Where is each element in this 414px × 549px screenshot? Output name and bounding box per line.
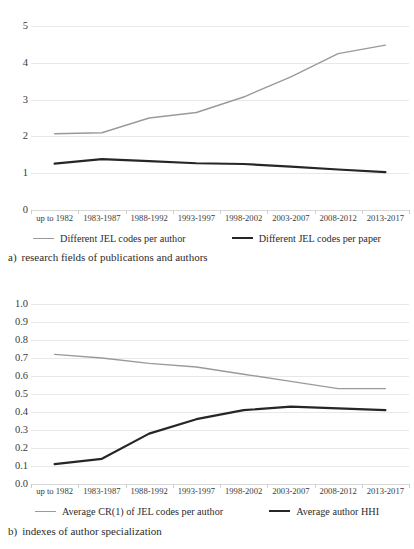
panel-caption-a: a)research fields of publications and au… — [8, 251, 208, 264]
x-tick-label: 2013-2017 — [367, 214, 404, 223]
x-tick-label: 1988-1992 — [131, 487, 168, 496]
y-tick-label: 0.9 — [15, 317, 28, 327]
legend-a: Different JEL codes per author Different… — [0, 231, 414, 245]
legend-item[interactable]: Different JEL codes per author — [33, 231, 186, 245]
series-lines-a — [31, 26, 409, 210]
y-tick-label: 5 — [23, 21, 28, 31]
y-tick-label: 0.5 — [15, 389, 28, 399]
y-tick-label: 1 — [23, 168, 28, 178]
y-tick-label: 0.2 — [15, 443, 28, 453]
x-tick-label: 1993-1997 — [178, 487, 215, 496]
y-tick-label: 4 — [23, 58, 28, 68]
caption-text: research fields of publications and auth… — [22, 251, 208, 263]
caption-text: indexes of author specialization — [22, 525, 162, 537]
plot-area-b: 0.00.10.20.30.40.50.60.70.80.91.0 — [0, 304, 414, 484]
caption-tag: a) — [8, 251, 17, 263]
y-tick-label: 3 — [23, 95, 28, 105]
series-line — [55, 407, 386, 465]
legend-item[interactable]: Average author HHI — [269, 504, 379, 518]
x-tick-label: 2003-2007 — [272, 214, 309, 223]
plot-area-a: 012345 — [0, 26, 414, 210]
chart-panel-a: 012345 up to 19821983-19871988-19921993-… — [0, 0, 414, 275]
x-tick-label: 1993-1997 — [178, 214, 215, 223]
x-tick-label: 2013-2017 — [367, 487, 404, 496]
panel-caption-b: b)indexes of author specialization — [8, 525, 162, 538]
x-tick-label: up to 1982 — [36, 487, 73, 496]
x-tick-label: 2003-2007 — [272, 487, 309, 496]
series-line — [55, 45, 386, 134]
x-tick-label: 2008-2012 — [320, 487, 357, 496]
legend-item[interactable]: Different JEL codes per paper — [232, 231, 381, 245]
legend-label: Different JEL codes per author — [60, 233, 186, 244]
y-tick-label: 0.4 — [15, 407, 28, 417]
series-lines-b — [31, 304, 409, 484]
x-axis-labels-a: up to 19821983-19871988-19921993-1997199… — [0, 214, 414, 226]
y-tick-label: 0.8 — [15, 335, 28, 345]
x-tick-label: 1983-1987 — [83, 214, 120, 223]
x-tick-label: 1988-1992 — [131, 214, 168, 223]
caption-tag: b) — [8, 525, 17, 537]
y-tick-label: 0.1 — [15, 461, 28, 471]
y-tick-label: 2 — [23, 131, 28, 141]
chart-panel-b: 0.00.10.20.30.40.50.60.70.80.91.0 up to … — [0, 275, 414, 549]
x-tick-label: 1983-1987 — [83, 487, 120, 496]
legend-label: Average author HHI — [296, 506, 379, 517]
x-tick-label: 1998-2002 — [225, 487, 262, 496]
series-line — [55, 159, 386, 172]
series-line — [55, 354, 386, 388]
y-tick-label: 1.0 — [15, 299, 28, 309]
legend-item[interactable]: Average CR(1) of JEL codes per author — [35, 504, 223, 518]
legend-line-icon — [269, 510, 290, 512]
y-axis-labels-a: 012345 — [0, 26, 30, 210]
y-tick-label: 0.3 — [15, 425, 28, 435]
x-tick-label: up to 1982 — [36, 214, 73, 223]
legend-line-icon — [35, 511, 56, 512]
x-tick-label: 2008-2012 — [320, 214, 357, 223]
y-tick-label: 0.6 — [15, 371, 28, 381]
y-tick-label: 0.7 — [15, 353, 28, 363]
y-axis-labels-b: 0.00.10.20.30.40.50.60.70.80.91.0 — [0, 304, 30, 484]
x-axis-labels-b: up to 19821983-19871988-19921993-1997199… — [0, 487, 414, 499]
legend-label: Average CR(1) of JEL codes per author — [62, 506, 223, 517]
legend-line-icon — [33, 238, 54, 239]
legend-b: Average CR(1) of JEL codes per author Av… — [0, 504, 414, 518]
legend-label: Different JEL codes per paper — [259, 233, 381, 244]
x-tick-label: 1998-2002 — [225, 214, 262, 223]
legend-line-icon — [232, 237, 253, 239]
